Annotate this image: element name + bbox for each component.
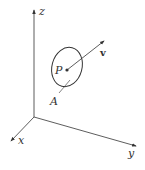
- y-axis: [34, 117, 136, 146]
- y-axis-label: y: [127, 147, 135, 160]
- vector-label: v: [99, 47, 107, 58]
- point-p: [65, 68, 68, 71]
- diagram-canvas: z x y P v A: [0, 0, 145, 170]
- area-label: A: [49, 95, 58, 108]
- x-axis-label: x: [18, 134, 25, 147]
- z-axis-label: z: [38, 5, 45, 18]
- vector-v: [67, 41, 104, 70]
- point-label: P: [54, 64, 63, 77]
